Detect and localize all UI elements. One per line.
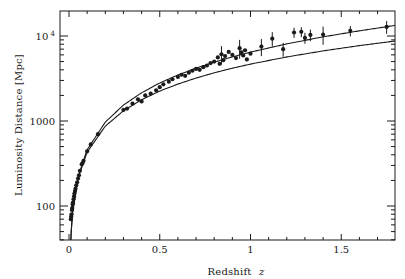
data-point [69, 212, 73, 216]
data-point [130, 102, 134, 106]
data-point [212, 59, 216, 63]
data-point [227, 50, 231, 54]
data-point [198, 68, 202, 72]
y-tick-label: 10 4 [36, 30, 56, 42]
data-point [248, 52, 252, 56]
y-tick-label: 1000 [30, 116, 55, 127]
data-point [219, 52, 223, 56]
plot-frame [60, 11, 395, 240]
y-tick-label: 100 [36, 201, 55, 212]
y-axis-title: Luminosity Distance [Mpc] [13, 54, 24, 196]
data-point [303, 36, 307, 40]
data-point [161, 82, 165, 86]
data-point [96, 132, 100, 136]
data-point [89, 142, 93, 146]
data-point [143, 93, 147, 97]
data-point [208, 61, 212, 65]
data-point [140, 99, 144, 103]
x-tick-label: 1.5 [333, 244, 349, 255]
x-tick-label: 0.5 [152, 244, 168, 255]
data-point [221, 58, 225, 62]
data-point [299, 30, 303, 34]
x-tick-label: 0 [66, 244, 72, 255]
data-point [241, 53, 245, 57]
data-point [75, 180, 79, 184]
data-point [81, 159, 85, 163]
data-point [216, 55, 220, 59]
data-point [321, 32, 325, 36]
data-point [179, 73, 183, 77]
data-point [158, 85, 162, 89]
hubble-diagram-chart: 00.511.5 100100010 4 Redshift z Luminosi… [0, 0, 405, 279]
data-point [78, 169, 82, 173]
data-point [230, 53, 234, 57]
data-point [194, 67, 198, 71]
data-point [270, 37, 274, 41]
data-point [205, 63, 209, 67]
data-point [85, 149, 89, 153]
data-point [176, 75, 180, 79]
x-axis-title: Redshift z [208, 266, 265, 277]
data-point [154, 88, 158, 92]
data-point [308, 33, 312, 37]
data-point [201, 65, 205, 69]
data-point [243, 48, 247, 52]
data-point [223, 54, 227, 58]
data-point [259, 45, 263, 49]
lower-model-curve [70, 41, 396, 263]
data-point [281, 47, 285, 51]
data-point [170, 77, 174, 81]
data-point [125, 106, 129, 110]
data-point [348, 29, 352, 33]
data-point [238, 46, 242, 50]
x-axis-title-variable: z [258, 266, 265, 277]
data-point [167, 80, 171, 84]
data-point [234, 56, 238, 60]
data-point [77, 173, 81, 177]
data-point [136, 97, 140, 101]
data-point [183, 74, 187, 78]
data-point [187, 71, 191, 75]
data-point [218, 62, 222, 66]
data-point [292, 30, 296, 34]
x-axis-title-text: Redshift [208, 266, 252, 277]
upper-model-curve [70, 25, 396, 262]
data-point [149, 92, 153, 96]
x-tick-label: 1 [247, 244, 253, 255]
data-point [121, 108, 125, 112]
data-point [190, 69, 194, 73]
data-point [245, 57, 249, 61]
data-points [69, 21, 389, 221]
model-curves [70, 25, 396, 263]
data-point [385, 25, 389, 29]
data-point [70, 206, 74, 210]
